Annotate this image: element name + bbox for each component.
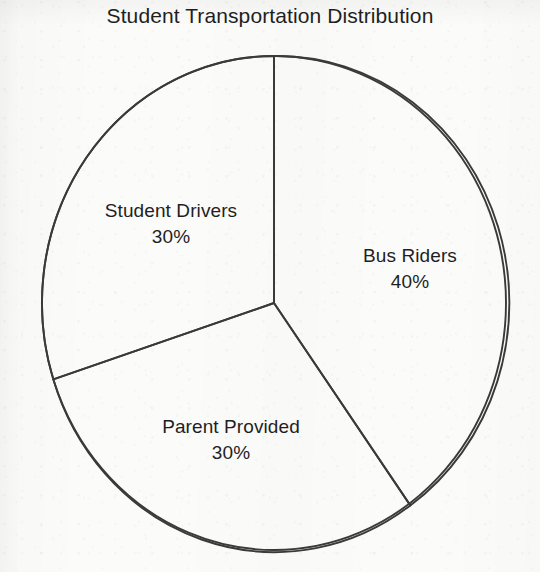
- pie-label-student-drivers-percent: 30%: [85, 224, 257, 250]
- pie-label-parent-provided-name: Parent Provided: [140, 414, 322, 440]
- pie-label-parent-provided-percent: 30%: [140, 440, 322, 466]
- pie-label-bus-riders-name: Bus Riders: [335, 243, 485, 269]
- pie-label-student-drivers: Student Drivers 30%: [85, 198, 257, 250]
- chart-page: Student Transportation Distribution Bus …: [0, 0, 540, 572]
- pie-label-student-drivers-name: Student Drivers: [85, 198, 257, 224]
- pie-label-parent-provided: Parent Provided 30%: [140, 414, 322, 466]
- pie-label-bus-riders: Bus Riders 40%: [335, 243, 485, 295]
- pie-label-bus-riders-percent: 40%: [335, 269, 485, 295]
